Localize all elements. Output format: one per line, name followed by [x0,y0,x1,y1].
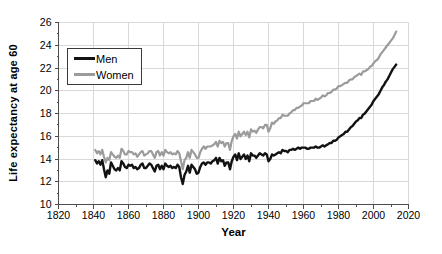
x-tick-label: 1960 [292,209,316,221]
x-tick-label: 1920 [222,209,246,221]
legend-label-men: Men [96,53,117,65]
y-tick-label: 12 [40,175,52,187]
x-tick-label: 2000 [362,209,386,221]
women-line-swatch [74,73,95,76]
life-expectancy-chart: 1012141618202224261820184018601880190019… [0,0,442,254]
x-tick-label: 1980 [327,209,351,221]
y-tick-label: 16 [40,130,52,142]
legend: Men Women [67,48,142,85]
legend-item-men: Men [74,51,141,67]
y-tick-label: 18 [40,107,52,119]
y-tick-label: 22 [40,62,52,74]
y-tick-label: 20 [40,84,52,96]
x-tick-label: 2020 [397,209,421,221]
legend-item-women: Women [74,67,141,83]
x-tick-label: 1940 [257,209,281,221]
x-tick-label: 1840 [82,209,106,221]
men-line-swatch [74,57,95,60]
x-tick-label: 1880 [152,209,176,221]
x-tick-label: 1860 [117,209,141,221]
plot-area: 1012141618202224261820184018601880190019… [0,0,442,254]
y-tick-label: 26 [40,16,52,28]
y-tick-label: 14 [40,153,52,165]
x-tick-label: 1820 [47,209,71,221]
y-tick-label: 24 [40,39,52,51]
legend-label-women: Women [96,69,134,81]
x-tick-label: 1900 [187,209,211,221]
x-axis-title: Year [58,226,409,238]
